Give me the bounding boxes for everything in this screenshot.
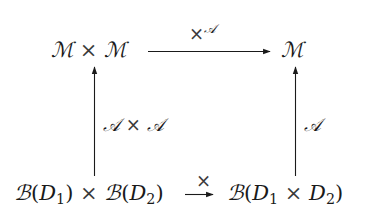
a-superscript: 𝒜 [204, 21, 216, 36]
top-arrow-label: ×𝒜 [189, 23, 216, 43]
a-symbol: 𝒜 [304, 114, 321, 135]
b-symbol: ℬ [227, 181, 244, 205]
open-paren: ( [31, 181, 39, 205]
subscript: 1 [269, 191, 278, 207]
times-symbol: × [80, 181, 98, 205]
a-symbol: 𝒜 [103, 114, 120, 135]
b-symbol: ℬ [104, 181, 121, 205]
a-symbol: 𝒜 [147, 114, 164, 135]
times-symbol: × [196, 170, 211, 191]
m-symbol: ℳ [51, 38, 73, 62]
d-variable: D [39, 181, 56, 205]
d-variable: D [252, 181, 269, 205]
d-variable: D [130, 181, 147, 205]
d-variable: D [309, 181, 326, 205]
node-bottom-left: ℬ(D1) × ℬ(D2) [14, 183, 164, 206]
m-symbol: ℳ [281, 38, 303, 62]
close-paren: ) [335, 181, 343, 205]
times-symbol: × [189, 23, 204, 44]
m-symbol: ℳ [104, 38, 126, 62]
node-top-right: ℳ [281, 40, 303, 61]
times-symbol: × [285, 181, 303, 205]
left-arrow-label: 𝒜 × 𝒜 [103, 116, 164, 134]
subscript: 1 [56, 191, 65, 207]
b-symbol: ℬ [14, 181, 31, 205]
node-top-left: ℳ × ℳ [51, 40, 126, 61]
node-bottom-right: ℬ(D1 × D2) [227, 183, 343, 206]
open-paren: ( [121, 181, 129, 205]
times-symbol: × [80, 38, 98, 62]
close-paren: ) [155, 181, 163, 205]
times-symbol: × [126, 114, 141, 135]
close-paren: ) [65, 181, 73, 205]
commutative-diagram: ℳ × ℳ ×𝒜 ℳ 𝒜 × 𝒜 𝒜 ℬ(D1) × ℬ(D2) × ℬ(D1 … [0, 0, 376, 217]
right-arrow-label: 𝒜 [304, 116, 321, 134]
subscript: 2 [326, 191, 335, 207]
open-paren: ( [244, 181, 252, 205]
bottom-arrow-label: × [196, 172, 211, 190]
